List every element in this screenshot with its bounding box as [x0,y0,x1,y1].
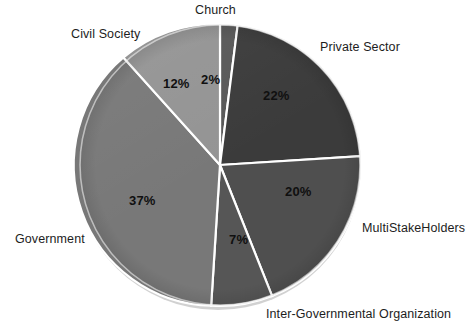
pie-value-private-sector: 22% [263,88,290,103]
pie-value-government: 37% [129,193,156,208]
pie-chart-svg [0,0,473,335]
chart-page: Church Civil Society Private Sector Mult… [0,0,473,335]
pie-label-multistakeholders: MultiStakeHolders [362,221,465,235]
pie-label-civil-society: Civil Society [71,27,140,41]
pie-value-church: 2% [201,72,220,87]
pie-value-civil-society: 12% [163,76,190,91]
pie-value-multistakeholders: 20% [285,184,312,199]
pie-value-igo: 7% [229,232,248,247]
pie-label-church: Church [195,3,236,17]
pie-label-igo: Inter-Governmental Organization [266,307,451,321]
pie-label-government: Government [15,232,85,246]
pie-chart: Church Civil Society Private Sector Mult… [0,0,473,335]
pie-label-private-sector: Private Sector [320,40,400,54]
